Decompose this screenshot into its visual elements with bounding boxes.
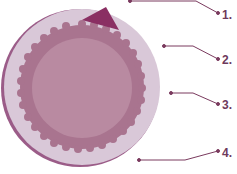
label-2: 2. [222,53,232,67]
label-3: 3. [222,98,232,112]
label-4: 4. [222,146,232,160]
label-1: 1. [222,8,232,22]
diagram-canvas [0,0,237,174]
inner-disc [32,38,132,138]
